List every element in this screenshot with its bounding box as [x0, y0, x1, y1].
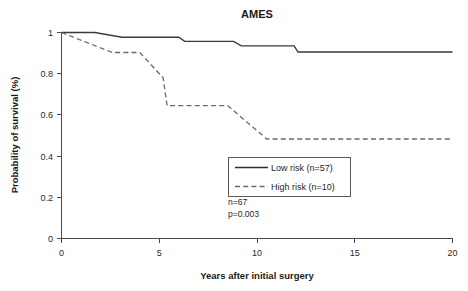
y-tick-label: 0.4: [40, 152, 53, 162]
survival-chart-figure: AMES 1 0.8 0.6 0.4 0.2 0: [0, 0, 468, 291]
y-tick-label: 0.6: [40, 110, 53, 120]
series-line-high-risk: [62, 33, 453, 140]
p-value-label: p=0.003: [228, 209, 259, 219]
y-tick-label: 0.8: [40, 69, 53, 79]
statistics-annotation: n=67 p=0.003: [228, 197, 259, 219]
y-tick-label: 0.2: [40, 193, 53, 203]
x-tick-label: 0: [59, 248, 64, 258]
chart-canvas: AMES 1 0.8 0.6 0.4 0.2 0: [0, 0, 468, 291]
chart-legend[interactable]: Low risk (n=57) High risk (n=10): [229, 158, 351, 197]
legend-label-low-risk: Low risk (n=57): [271, 163, 333, 173]
y-axis-tick-labels: 1 0.8 0.6 0.4 0.2 0: [40, 28, 53, 244]
y-tick-label: 0: [48, 234, 53, 244]
y-axis-title: Probability of survival (%): [9, 77, 20, 194]
x-tick-label: 20: [447, 248, 457, 258]
x-tick-label: 5: [157, 248, 162, 258]
x-tick-label: 15: [350, 248, 360, 258]
legend-label-high-risk: High risk (n=10): [271, 182, 335, 192]
y-axis-ticks: [57, 33, 61, 239]
total-n-label: n=67: [228, 197, 247, 207]
x-tick-label: 10: [252, 248, 262, 258]
x-axis-title: Years after initial surgery: [200, 270, 314, 281]
y-tick-label: 1: [48, 28, 53, 38]
series-line-low-risk: [62, 33, 453, 53]
x-axis-tick-labels: 0 5 10 15 20: [59, 248, 458, 258]
page-title: AMES: [241, 8, 273, 20]
